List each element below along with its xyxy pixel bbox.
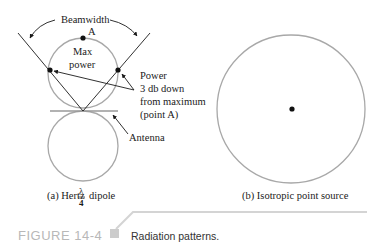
- figure-caption: Radiation patterns.: [131, 230, 219, 242]
- beamwidth-label: Beamwidth: [61, 14, 110, 25]
- lower-lobe: [48, 111, 118, 181]
- max-power-label-1: Max: [73, 46, 93, 57]
- power-note-4: (point A): [140, 109, 179, 121]
- caption-rule: [116, 212, 367, 229]
- caption-fraction-denominator: 4: [79, 198, 84, 208]
- antenna-label: Antenna: [129, 132, 165, 143]
- point-source-marker: [289, 106, 294, 111]
- power-note-3: from maximum: [140, 96, 206, 107]
- caption-fraction-numerator: λ: [79, 186, 84, 196]
- radiation-patterns-figure: Beamwidth A Max power Power 3 db down fr…: [0, 0, 384, 250]
- half-power-point-left: [47, 67, 52, 72]
- pointer-left: [54, 71, 134, 90]
- figure-caption-bar: FIGURE 14-4 Radiation patterns.: [18, 212, 367, 243]
- panel-a-hertz-dipole: Beamwidth A Max power Power 3 db down fr…: [18, 14, 206, 208]
- caption-marker-square: [110, 229, 119, 238]
- beamwidth-arrow-left: [30, 20, 55, 38]
- power-note-2: 3 db down: [140, 83, 185, 94]
- max-power-label-2: power: [69, 59, 96, 70]
- beamwidth-arrow-right: [110, 20, 137, 36]
- figure-number: FIGURE 14-4: [18, 228, 102, 243]
- half-power-point-right: [115, 67, 120, 72]
- panel-a-caption-suffix: dipole: [89, 190, 116, 201]
- power-note-1: Power: [140, 70, 167, 81]
- point-a-marker: [80, 35, 85, 40]
- panel-b-isotropic-source: (b) Isotropic point source: [217, 35, 365, 202]
- point-a-label: A: [88, 26, 96, 37]
- panel-b-caption: (b) Isotropic point source: [242, 190, 349, 202]
